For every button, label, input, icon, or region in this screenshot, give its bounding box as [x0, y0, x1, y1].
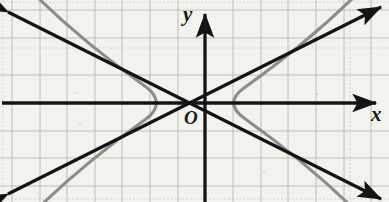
scan-speckle: [317, 125, 318, 126]
x-axis-label: x: [371, 104, 382, 125]
y-axis-label: y: [183, 4, 192, 25]
scan-speckle: [79, 123, 81, 125]
scan-speckle: [316, 93, 318, 95]
scan-speckle: [263, 171, 265, 173]
scan-speckle: [75, 92, 76, 93]
hyperbola-figure: y x O: [0, 0, 389, 202]
graph-canvas: [0, 0, 389, 202]
origin-label: O: [184, 108, 198, 127]
